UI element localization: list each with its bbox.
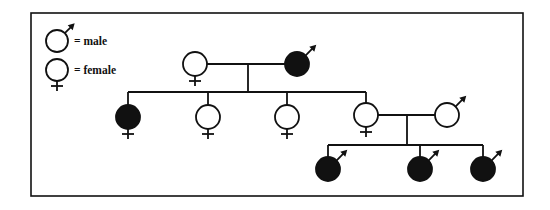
circle-icon: [471, 157, 495, 181]
male-symbol-affected: [285, 45, 316, 76]
circle-icon: [435, 103, 459, 127]
pedigree-lines: [128, 64, 483, 157]
legend-male-symbol: [46, 23, 75, 52]
female-symbol: [354, 103, 378, 137]
circle-icon: [196, 105, 220, 129]
circle-icon: [285, 52, 309, 76]
female-symbol: [275, 105, 299, 139]
circle-icon: [116, 105, 140, 129]
female-symbol-affected: [116, 105, 140, 139]
female-symbol: [196, 105, 220, 139]
circle-icon: [46, 30, 68, 52]
male-symbol: [435, 96, 466, 127]
female-symbol: [46, 59, 68, 91]
female-symbol: [183, 52, 207, 86]
circle-icon: [183, 52, 207, 76]
circle-icon: [354, 103, 378, 127]
circle-icon: [275, 105, 299, 129]
legend-male-label: = male: [74, 35, 107, 47]
circle-icon: [316, 157, 340, 181]
male-symbol-affected: [408, 150, 439, 181]
legend-female-symbol: [46, 59, 68, 91]
circle-icon: [46, 59, 68, 81]
legend-female-label: = female: [74, 64, 116, 76]
pedigree-diagram: = male = female: [0, 0, 550, 210]
male-symbol: [46, 23, 75, 52]
pedigree-individuals: [116, 45, 502, 181]
male-symbol-affected: [471, 150, 502, 181]
male-symbol-affected: [316, 150, 347, 181]
circle-icon: [408, 157, 432, 181]
legend: = male = female: [46, 23, 116, 91]
